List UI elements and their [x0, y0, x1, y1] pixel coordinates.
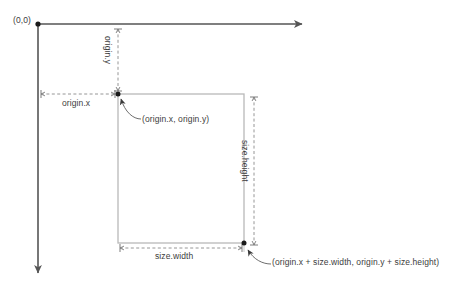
origin-point-leader-line [121, 99, 141, 119]
far-corner-point-label: (origin.x + size.width, origin.y + size.… [272, 257, 439, 267]
size-height-label: size.height [240, 140, 250, 182]
diagram-canvas [0, 0, 460, 293]
coordinate-diagram: (0,0) origin.x origin.y size.width size.… [0, 0, 460, 293]
origin-x-label: origin.x [62, 98, 90, 108]
rect-far-corner-dot-marker-icon [242, 241, 247, 246]
origin-y-label: origin.y [103, 36, 113, 64]
far-corner-leader-line [248, 250, 271, 264]
rect-origin-dot-marker-icon [116, 92, 121, 97]
size-width-label: size.width [155, 251, 193, 261]
origin-dot-marker-icon [35, 21, 40, 26]
origin-point-label: (origin.x, origin.y) [142, 114, 209, 124]
coordinate-origin-label: (0,0) [13, 15, 31, 25]
